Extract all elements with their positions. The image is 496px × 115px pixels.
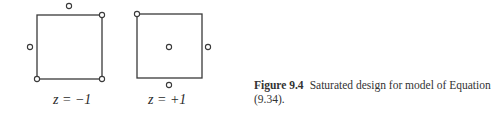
- design-point: [99, 76, 104, 81]
- design-point: [205, 44, 210, 49]
- design-square: [37, 15, 102, 79]
- figure-label: Figure 9.4: [254, 79, 304, 91]
- design-point: [99, 12, 104, 17]
- design-point: [166, 44, 171, 49]
- design-point: [134, 11, 139, 16]
- design-point: [27, 44, 32, 49]
- panel-z-minus-1: [27, 3, 104, 81]
- z-label-minus-1: z = −1: [53, 92, 91, 108]
- design-point: [166, 82, 171, 87]
- z-label-plus-1: z = +1: [148, 92, 186, 108]
- figure-caption: Figure 9.4Saturated design for model of …: [254, 78, 494, 106]
- design-point: [66, 3, 71, 8]
- panel-z-plus-1: [134, 11, 210, 87]
- design-point: [34, 76, 39, 81]
